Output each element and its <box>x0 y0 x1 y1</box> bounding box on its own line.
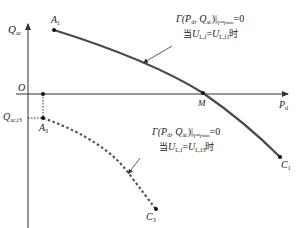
label-C1: C1 <box>281 160 291 171</box>
point-A1 <box>52 28 56 32</box>
pointer-annotation-1 <box>143 46 172 63</box>
label-q-tick: Qac,t3 <box>3 112 22 123</box>
label-M: M <box>198 99 206 108</box>
origin-label: O <box>18 83 25 93</box>
point-origin-tick <box>41 92 45 96</box>
annotation-1-formula: Γ(Pd, Qac)|γ=γmin=0 <box>176 14 244 25</box>
dotted-curve-A3-C3 <box>43 118 155 208</box>
label-A1: A1 <box>51 15 60 26</box>
annotation-1-condition: 当UL,f=UL,f1时 <box>183 29 238 40</box>
point-M <box>201 91 205 95</box>
pointer-annotation-2 <box>128 158 140 174</box>
annotation-2-condition: 当UL,f=UL,f3时 <box>159 142 214 153</box>
point-C3 <box>154 207 158 211</box>
label-C3: C3 <box>146 212 156 223</box>
annotation-2-formula: Γ(Pd, Qac)|γ=γmin=0 <box>152 127 220 138</box>
label-A3: A3 <box>39 123 48 134</box>
x-axis-label: Pd <box>279 100 288 111</box>
diagram-canvas <box>0 0 297 228</box>
point-A3 <box>41 116 45 120</box>
y-axis-label: Qac <box>8 24 21 36</box>
